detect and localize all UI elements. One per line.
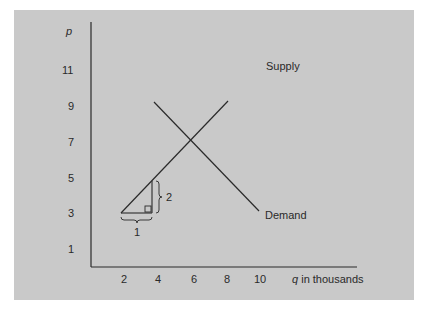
run-brace bbox=[121, 217, 152, 223]
rise-label: 2 bbox=[166, 191, 172, 203]
x-tick-label: 4 bbox=[155, 273, 161, 285]
y-tick-label: 7 bbox=[68, 136, 74, 148]
x-tick-label: 2 bbox=[121, 273, 127, 285]
slope-triangle: 1 2 bbox=[121, 181, 172, 238]
x-tick-label: 6 bbox=[191, 273, 197, 285]
y-axis-label: p bbox=[65, 25, 72, 37]
run-label: 1 bbox=[134, 226, 140, 238]
right-angle-marker bbox=[145, 206, 151, 212]
x-axis-label: q in thousands bbox=[292, 273, 364, 285]
y-tick-label: 9 bbox=[68, 100, 74, 112]
supply-label: Supply bbox=[266, 60, 300, 72]
y-tick-label: 5 bbox=[68, 172, 74, 184]
demand-label: Demand bbox=[265, 209, 307, 221]
y-tick-label: 3 bbox=[68, 207, 74, 219]
rise-brace bbox=[156, 181, 162, 213]
y-tick-label: 1 bbox=[68, 243, 74, 255]
supply-line bbox=[121, 101, 228, 213]
x-tick-label: 10 bbox=[254, 273, 266, 285]
supply-demand-chart: p 1 3 5 7 9 11 2 4 6 8 10 q in thousands… bbox=[0, 0, 428, 310]
x-tick-label: 8 bbox=[224, 273, 230, 285]
y-tick-label: 11 bbox=[62, 64, 73, 76]
